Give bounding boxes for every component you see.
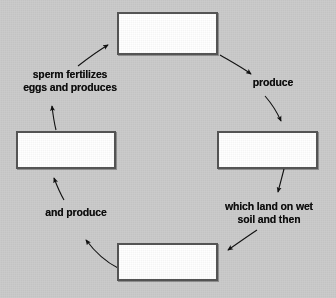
label-produce: produce [231, 76, 315, 89]
label-which-land-on-wet-soil-and-then: which land on wet soil and then [205, 200, 333, 226]
arrow-produce-to-right [265, 96, 281, 121]
arrow-sperm-to-top [78, 45, 108, 66]
cycle-box-bottom[interactable] [117, 243, 218, 281]
label-sperm-fertilizes-eggs-and-produces: sperm fertilizes eggs and produces [6, 68, 134, 94]
cycle-box-left[interactable] [16, 131, 116, 169]
arrow-top-to-produce [220, 55, 251, 74]
cycle-diagram: sperm fertilizes eggs and produces produ… [0, 0, 336, 298]
arrow-bottom-to-andproduce [86, 240, 118, 268]
cycle-box-right[interactable] [217, 131, 318, 169]
label-and-produce: and produce [22, 206, 130, 219]
arrow-wetsoil-to-bottom [228, 230, 257, 250]
arrow-andproduce-to-left [54, 178, 64, 200]
arrow-left-to-sperm [52, 106, 56, 130]
cycle-box-top[interactable] [117, 12, 218, 55]
arrow-right-to-wetsoil [278, 169, 284, 192]
